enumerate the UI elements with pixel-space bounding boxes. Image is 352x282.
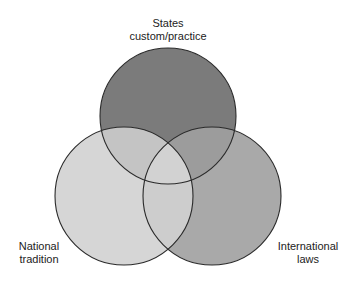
label-line: tradition [4, 253, 74, 266]
label-line: National [4, 240, 74, 253]
label-line: States [118, 17, 218, 30]
label-international-laws: International laws [268, 240, 348, 266]
label-line: custom/practice [118, 30, 218, 43]
label-line: laws [268, 253, 348, 266]
label-states-custom-practice: States custom/practice [118, 17, 218, 43]
label-national-tradition: National tradition [4, 240, 74, 266]
label-line: International [268, 240, 348, 253]
